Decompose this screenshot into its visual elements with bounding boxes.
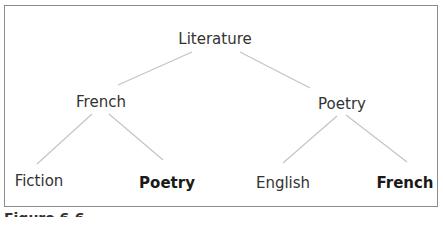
edge-literature-french [118, 52, 192, 85]
edge-french-fiction [37, 114, 92, 164]
node-poetry-leaf: Poetry [139, 174, 195, 192]
figure-caption: Figure 6.6 [4, 210, 84, 217]
edge-poetry-french [346, 115, 407, 162]
edge-french-poetry [109, 114, 163, 160]
edge-poetry-english [283, 116, 337, 163]
node-french-leaf: French [376, 174, 433, 192]
edge-literature-poetry [240, 52, 310, 88]
node-french: French [76, 93, 126, 111]
node-literature: Literature [178, 30, 251, 48]
node-english: English [256, 174, 310, 192]
node-poetry: Poetry [318, 95, 366, 113]
node-fiction: Fiction [15, 172, 64, 190]
